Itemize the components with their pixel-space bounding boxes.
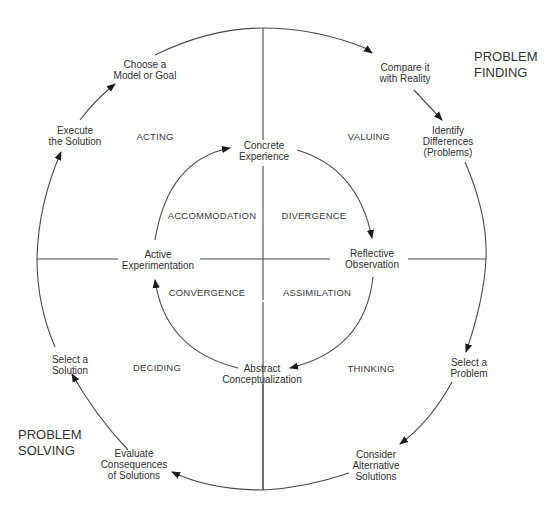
outer-arc-execute-choose: [80, 84, 115, 120]
inner-abstract-conceptualization: Abstract Conceptualization: [222, 363, 302, 385]
step-line: Select a: [52, 354, 88, 365]
step-line: Concrete: [239, 140, 289, 151]
step-select-solution: Select a Solution: [52, 354, 88, 376]
problem-finding-label: PROBLEM FINDING: [474, 49, 538, 81]
outer-arc-left: [37, 152, 61, 347]
quadrant-thinking: THINKING: [348, 363, 395, 374]
inner-arc-ae-ce: [155, 148, 230, 240]
step-consider-alternatives: Consider Alternative Solutions: [352, 449, 399, 482]
problem-finding-line1: PROBLEM: [474, 49, 538, 65]
step-line: Consequences: [101, 459, 168, 470]
step-line: of Solutions: [101, 470, 168, 481]
step-line: Reflective: [345, 248, 399, 259]
step-line: (Problems): [423, 147, 473, 158]
quadrant-divergence: DIVERGENCE: [282, 210, 347, 221]
inner-concrete-experience: Concrete Experience: [239, 140, 289, 162]
quadrant-convergence: CONVERGENCE: [169, 287, 246, 298]
step-line: Problem: [450, 368, 487, 379]
step-evaluate-consequences: Evaluate Consequences of Solutions: [101, 448, 168, 481]
step-line: Experience: [239, 151, 289, 162]
quadrant-assimilation: ASSIMILATION: [283, 287, 351, 298]
step-line: Solution: [52, 365, 88, 376]
step-line: Solutions: [352, 471, 399, 482]
step-line: Observation: [345, 259, 399, 270]
step-choose-model: Choose a Model or Goal: [114, 59, 177, 81]
step-line: Abstract: [222, 363, 302, 374]
step-line: Differences: [423, 136, 473, 147]
quadrant-deciding: DECIDING: [133, 362, 181, 373]
step-line: Compare it: [379, 62, 430, 73]
inner-arc-ce-ro: [297, 150, 372, 238]
quadrant-acting: ACTING: [136, 131, 173, 142]
step-line: Active: [122, 249, 194, 260]
step-select-problem: Select a Problem: [450, 357, 487, 379]
outer-arc-compare-identify: [414, 90, 442, 120]
problem-solving-line2: SOLVING: [18, 443, 82, 459]
step-execute-solution: Execute the Solution: [49, 125, 102, 147]
outer-arc-right: [465, 162, 486, 352]
step-line: Identify: [423, 125, 473, 136]
quadrant-accommodation: ACCOMMODATION: [168, 210, 256, 221]
step-compare-reality: Compare it with Reality: [379, 62, 430, 84]
step-line: Alternative: [352, 460, 399, 471]
inner-reflective-observation: Reflective Observation: [345, 248, 399, 270]
step-identify-differences: Identify Differences (Problems): [423, 125, 473, 158]
step-line: Consider: [352, 449, 399, 460]
step-line: Conceptualization: [222, 374, 302, 385]
problem-solving-line1: PROBLEM: [18, 427, 82, 443]
step-line: Model or Goal: [114, 70, 177, 81]
step-line: Experimentation: [122, 260, 194, 271]
problem-finding-line2: FINDING: [474, 65, 538, 81]
step-line: Select a: [450, 357, 487, 368]
outer-arc-bottom: [172, 472, 349, 490]
step-line: with Reality: [379, 73, 430, 84]
outer-arc-select-consider: [400, 382, 452, 444]
step-line: Execute: [49, 125, 102, 136]
quadrant-valuing: VALUING: [348, 131, 390, 142]
cycle-diagram-graphics: [0, 0, 550, 517]
step-line: Evaluate: [101, 448, 168, 459]
step-line: Choose a: [114, 59, 177, 70]
step-line: the Solution: [49, 136, 102, 147]
inner-active-experimentation: Active Experimentation: [122, 249, 194, 271]
problem-solving-label: PROBLEM SOLVING: [18, 427, 82, 459]
